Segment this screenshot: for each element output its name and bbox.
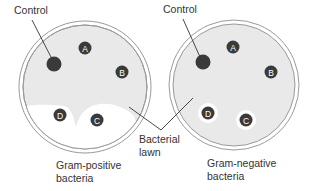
svg-text:A: A (82, 44, 88, 54)
svg-text:B: B (268, 68, 274, 78)
gram-negative-dish: A B C D (169, 20, 299, 150)
gram-positive-dish: A B C D (15, 21, 151, 160)
gram-negative-label: Gram-negative bacteria (207, 157, 276, 182)
control-label-left: Control (14, 4, 48, 17)
antibiotic-disc-diagram: A B C D A B C D Control Control Bacteria… (0, 0, 312, 191)
disc-d: D (202, 107, 215, 120)
gram-positive-line2: bacteria (56, 172, 121, 185)
gram-positive-line1: Gram-positive (56, 159, 121, 172)
control-disc (196, 55, 211, 70)
svg-text:C: C (243, 116, 249, 126)
control-disc (47, 57, 62, 72)
gram-negative-line2: bacteria (207, 170, 276, 183)
gram-positive-label: Gram-positive bacteria (56, 159, 121, 184)
disc-c: C (91, 114, 104, 127)
svg-text:B: B (119, 68, 125, 78)
svg-text:D: D (205, 109, 211, 119)
gram-negative-line1: Gram-negative (207, 157, 276, 170)
disc-a: A (227, 41, 240, 54)
disc-a: A (79, 42, 92, 55)
svg-text:A: A (230, 43, 236, 53)
bacterial-lawn-line2: lawn (139, 146, 180, 159)
bacterial-lawn-label: Bacterial lawn (139, 133, 180, 158)
disc-c: C (240, 114, 253, 127)
svg-text:D: D (57, 111, 63, 121)
bacterial-lawn-line1: Bacterial (139, 133, 180, 146)
svg-text:C: C (94, 116, 100, 126)
disc-b: B (116, 66, 129, 79)
control-label-right: Control (163, 3, 197, 16)
disc-b: B (265, 66, 278, 79)
disc-d: D (54, 109, 67, 122)
